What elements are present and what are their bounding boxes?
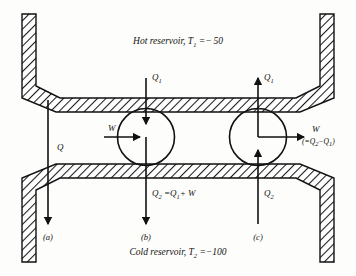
hot-reservoir-label: Hot reservoir, T1 =− 50 xyxy=(132,36,223,48)
figure-canvas: Hot reservoir, T1 =− 50 Cold reservoir, … xyxy=(0,0,356,276)
branch-b-caption: (b) xyxy=(141,232,151,242)
branch-a-caption: (a) xyxy=(43,232,53,242)
cold-reservoir-label: Cold reservoir, T2 =−100 xyxy=(130,247,227,259)
branch-c-caption: (c) xyxy=(253,232,263,242)
thermo-diagram-svg: Hot reservoir, T1 =− 50 Cold reservoir, … xyxy=(0,0,356,276)
branch-a-flow-label: Q xyxy=(57,142,64,152)
